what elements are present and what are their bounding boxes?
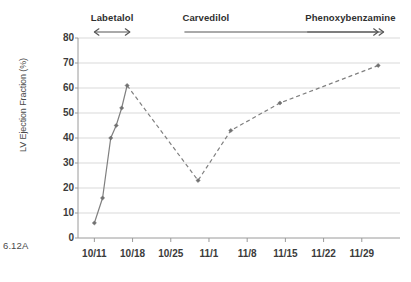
data-point-marker (100, 196, 104, 200)
data-point-marker (120, 106, 124, 110)
chart-figure: 6.12A LV Ejection Fraction (%) 010203040… (0, 0, 411, 282)
data-point-marker (92, 221, 96, 225)
plot-area (0, 0, 411, 282)
data-point-marker (109, 136, 113, 140)
data-point-marker (114, 123, 118, 127)
data-point-marker (376, 63, 380, 67)
